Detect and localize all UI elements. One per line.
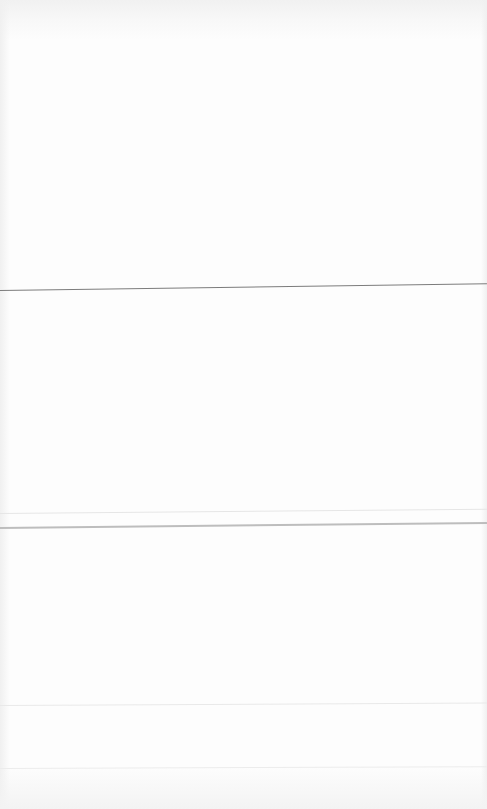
section-top [0,40,487,285]
top-edge-shadow [0,0,487,40]
bottom-edge-shadow [0,767,487,809]
divider-line-2b [0,522,487,529]
section-lower [0,532,487,702]
divider-line-3 [0,702,487,706]
section-footer [0,708,487,766]
blank-page [0,0,487,809]
section-middle [0,295,487,510]
